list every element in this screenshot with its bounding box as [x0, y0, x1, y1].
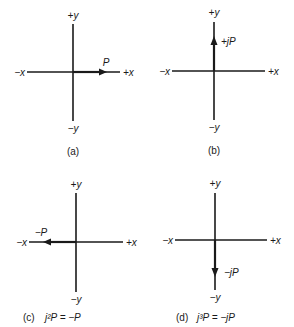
caption-tag: (b): [208, 145, 220, 156]
label-neg-x: −x: [162, 235, 174, 246]
label-neg-y: −y: [210, 292, 222, 303]
vector-label: −P: [35, 227, 48, 238]
label-neg-x: −x: [14, 67, 26, 78]
caption-tag: (d): [176, 312, 188, 323]
caption-tag: (a): [67, 146, 79, 157]
caption-equation: j³P = −jP: [195, 312, 235, 323]
caption-tag: (c): [23, 312, 35, 323]
j-operator-diagram: +y −y −x +x P (a) +y −y −x +x +jP (b) +y…: [0, 0, 294, 327]
panel-c: +y −y −x +x −P (c) j²P = −P: [16, 179, 138, 323]
vector-label: −jP: [224, 267, 239, 278]
panel-b: +y −y −x +x +jP (b): [159, 7, 280, 156]
label-neg-x: −x: [16, 237, 28, 248]
label-pos-y: +y: [210, 178, 222, 189]
label-neg-y: −y: [71, 294, 83, 305]
arrowhead-right-icon: [99, 69, 107, 76]
arrowhead-down-icon: [212, 268, 219, 277]
arrowhead-up-icon: [211, 36, 218, 45]
label-neg-y: −y: [209, 122, 221, 133]
label-neg-y: −y: [68, 123, 80, 134]
arrowhead-left-icon: [43, 239, 51, 246]
vector-label: P: [103, 57, 110, 68]
caption-equation: j²P = −P: [43, 312, 81, 323]
label-pos-y: +y: [71, 179, 83, 190]
vector-label: +jP: [221, 36, 236, 47]
panel-a: +y −y −x +x P (a): [14, 10, 135, 157]
label-pos-x: +x: [123, 67, 135, 78]
panel-d: +y −y −x +x −jP (d) j³P = −jP: [162, 178, 282, 323]
label-neg-x: −x: [159, 66, 171, 77]
label-pos-y: +y: [209, 7, 221, 18]
label-pos-x: +x: [126, 237, 138, 248]
label-pos-y: +y: [68, 10, 80, 21]
label-pos-x: +x: [268, 66, 280, 77]
label-pos-x: +x: [270, 235, 282, 246]
